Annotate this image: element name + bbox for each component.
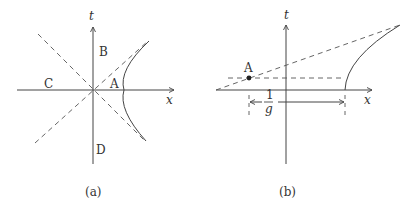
x-axis-label: x xyxy=(364,93,371,107)
distance-denominator: g xyxy=(265,102,273,116)
x-axis-label: x xyxy=(166,93,173,107)
point-label-a: A xyxy=(243,61,253,75)
light-cone-line xyxy=(35,41,148,143)
caption-a: (a) xyxy=(85,185,102,199)
t-axis-label: t xyxy=(89,9,94,23)
region-label-d: D xyxy=(96,143,106,157)
panel-a: t x B C A D (a) xyxy=(17,9,174,199)
region-label-a: A xyxy=(109,77,119,91)
light-cone-line xyxy=(38,34,146,142)
caption-b: (b) xyxy=(279,185,296,199)
distance-numerator: 1 xyxy=(266,88,274,102)
asymptote-line xyxy=(216,25,400,90)
hyperbola xyxy=(123,41,149,141)
point-a xyxy=(247,76,252,81)
t-axis-label: t xyxy=(284,8,289,22)
panel-b: t x A 1 g (b) xyxy=(216,8,400,199)
region-label-c: C xyxy=(44,77,53,91)
region-label-b: B xyxy=(99,45,108,59)
figure: t x B C A D (a) t x A 1 g (b) xyxy=(0,0,412,210)
